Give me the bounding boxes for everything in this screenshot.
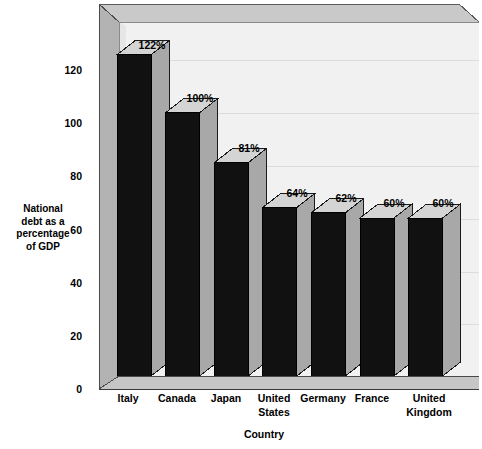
bar-value-label-united-states: 64% [275, 188, 319, 199]
x-tick-label-united-states-line2: States [243, 406, 305, 420]
bar-france [360, 204, 412, 376]
bar-canada [166, 99, 218, 376]
bar-value-label-france: 60% [372, 198, 416, 209]
x-tick-label-united-kingdom: United Kingdom [392, 392, 466, 419]
bar-value-label-canada: 100% [178, 93, 222, 104]
x-tick-label-united-kingdom-line2: Kingdom [392, 406, 466, 420]
bar-united-states [263, 193, 315, 376]
x-axis-title: Country [204, 428, 324, 440]
y-tick-label-60: 60 [56, 225, 82, 236]
y-tick-label-40: 40 [56, 278, 82, 289]
y-tick-label-0: 0 [56, 384, 82, 395]
bar-value-label-italy: 122% [130, 40, 174, 51]
y-tick-label-120: 120 [56, 65, 82, 76]
plot-floor [99, 376, 479, 389]
y-tick-label-80: 80 [56, 171, 82, 182]
bar-value-label-germany: 62% [324, 193, 368, 204]
bar-value-label-japan: 81% [227, 143, 271, 154]
bar-germany [311, 199, 363, 376]
bar-japan [214, 149, 266, 376]
y-tick-label-20: 20 [56, 331, 82, 342]
bar-united-kingdom [409, 204, 461, 376]
bar-chart: National debt as a percentage of GDP 120… [0, 0, 482, 449]
x-tick-label-united-kingdom-line1: United [392, 392, 466, 406]
bar-value-label-united-kingdom: 60% [421, 198, 465, 209]
bar-italy [117, 41, 169, 376]
y-tick-label-100: 100 [56, 118, 82, 129]
